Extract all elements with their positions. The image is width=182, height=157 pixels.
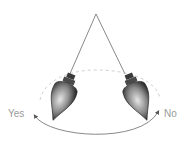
yes-label: Yes (8, 108, 24, 119)
pendulum-left (42, 69, 84, 125)
no-label: No (164, 108, 177, 119)
strings (69, 14, 125, 76)
pendulum-diagram (0, 0, 182, 157)
pendulum-right (117, 69, 159, 125)
